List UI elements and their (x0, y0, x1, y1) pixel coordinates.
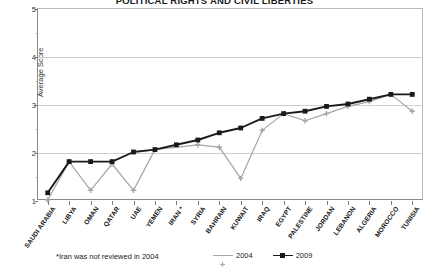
data-point-2009 (324, 104, 329, 109)
data-point-2009 (410, 92, 415, 97)
x-axis-tick-label: IRAQ (255, 205, 270, 223)
x-axis-tick (305, 201, 306, 205)
square-marker-icon (280, 253, 285, 258)
x-axis-tick (284, 201, 285, 205)
legend-item-2004: 2004 (213, 251, 253, 260)
x-axis-tick-label: MOROCCO (373, 205, 399, 238)
x-axis-tick-label: QATAR (102, 205, 121, 228)
x-axis-tick-label: TUNISIA (400, 205, 421, 231)
data-point-2009 (67, 159, 72, 164)
x-axis-tick (327, 201, 328, 205)
y-axis-tick-label: 2 (12, 149, 36, 158)
x-axis-tick-label: LEBANON (332, 205, 357, 236)
x-axis-tick (69, 201, 70, 205)
x-axis-tick-label: SAUDI ARABIA (23, 205, 57, 249)
x-axis-tick (369, 201, 370, 205)
x-axis-tick-label: IRAN * (167, 205, 185, 226)
legend-label-2004: 2004 (236, 251, 253, 260)
y-axis-tick-label: 4 (12, 53, 36, 62)
data-point-2009 (238, 126, 243, 131)
x-axis-tick-label: EGYPT (273, 205, 292, 228)
legend-swatch-2009 (273, 251, 293, 260)
x-axis-tick (48, 201, 49, 205)
legend-label-2009: 2009 (296, 251, 313, 260)
legend-swatch-2004 (213, 251, 233, 260)
x-axis-tick (219, 201, 220, 205)
legend-item-2009: 2009 (273, 251, 313, 260)
data-point-2004 (302, 118, 307, 123)
data-point-2009 (388, 92, 393, 97)
data-point-2004 (324, 111, 329, 116)
y-axis-tick-label: 3 (12, 101, 36, 110)
plus-marker-icon (220, 253, 225, 258)
data-point-2009 (367, 97, 372, 102)
y-axis-tick-label: 5 (12, 5, 36, 14)
series-line-2004 (48, 94, 413, 200)
x-axis-tick (412, 201, 413, 205)
x-axis-tick-label: OMAN (82, 205, 100, 226)
data-point-2009 (260, 116, 265, 121)
data-point-2009 (131, 150, 136, 155)
data-point-2009 (281, 111, 286, 116)
x-axis-tick (391, 201, 392, 205)
data-point-2009 (303, 109, 308, 114)
data-point-2009 (153, 147, 158, 152)
chart-legend: 2004 2009 (213, 251, 312, 260)
chart-title: POLITICAL RIGHTS AND CIVIL LIBERTIES (0, 0, 429, 4)
x-axis-tick (91, 201, 92, 205)
data-point-2009 (88, 159, 93, 164)
x-axis-tick (348, 201, 349, 205)
x-axis-tick-label: JORDAN (313, 205, 335, 232)
x-axis-labels: SAUDI ARABIALIBYAOMANQATARUAEYEMENIRAN *… (37, 201, 423, 257)
chart-container: POLITICAL RIGHTS AND CIVIL LIBERTIES Ave… (0, 0, 429, 272)
data-point-2004 (195, 142, 200, 147)
data-point-2009 (217, 130, 222, 135)
x-axis-tick (198, 201, 199, 205)
x-axis-tick-label: KUWAIT (228, 205, 249, 231)
x-axis-tick-label: YEMEN (144, 205, 163, 229)
data-point-2009 (174, 142, 179, 147)
y-axis-tick-label: 1 (12, 197, 36, 206)
x-axis-tick (241, 201, 242, 205)
x-axis-tick (262, 201, 263, 205)
x-axis-tick-label: LIBYA (61, 205, 78, 225)
x-axis-tick (176, 201, 177, 205)
data-point-2009 (346, 102, 351, 107)
x-axis-tick-label: ALGERIA (355, 205, 378, 234)
x-axis-tick-label: SYRIA (189, 205, 207, 226)
data-point-2009 (110, 159, 115, 164)
x-axis-tick-label: BAHRAIN (204, 205, 228, 234)
chart-footnote: *Iran was not reviewed in 2004 (56, 252, 159, 261)
series-line-2009 (48, 94, 413, 192)
x-axis-tick (112, 201, 113, 205)
x-axis-tick (134, 201, 135, 205)
x-axis-tick (155, 201, 156, 205)
data-point-2009 (195, 138, 200, 143)
x-axis-tick-label: UAE (128, 205, 142, 221)
series-layer (37, 8, 423, 200)
data-point-2009 (45, 190, 50, 195)
